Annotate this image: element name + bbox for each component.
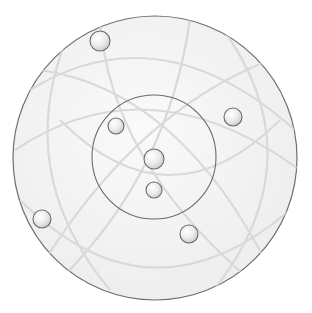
sphere-diagram-stage bbox=[0, 0, 312, 313]
ball-top-left bbox=[90, 31, 110, 51]
ball-center bbox=[144, 149, 164, 169]
ball-inner-upper-left bbox=[108, 118, 124, 134]
ball-center-lower bbox=[146, 182, 162, 198]
ball-left bbox=[33, 210, 51, 228]
sphere-illustration bbox=[0, 0, 312, 313]
ball-lower-right bbox=[180, 225, 198, 243]
ball-right bbox=[224, 108, 242, 126]
